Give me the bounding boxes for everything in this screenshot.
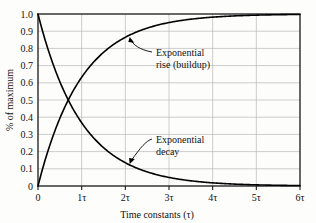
y-tick-label: 0.8 [21, 43, 34, 54]
x-axis-title: Time constants (τ) [120, 209, 194, 221]
y-tick-label: 1.0 [21, 9, 34, 20]
x-tick-label: 3τ [164, 192, 173, 203]
y-tick-label: 0.9 [21, 26, 34, 37]
y-tick-label: 0 [28, 181, 33, 192]
y-axis-tick-labels: 00.10.20.30.40.50.60.70.80.91.0 [21, 9, 34, 192]
y-tick-label: 0.4 [21, 112, 34, 123]
figure-background [0, 0, 316, 223]
x-tick-label: 2τ [121, 192, 130, 203]
y-tick-label: 0.7 [21, 60, 34, 71]
exponential-curves-figure: 00.10.20.30.40.50.60.70.80.91.0 01τ2τ3τ4… [0, 0, 316, 223]
x-tick-label: 6τ [295, 192, 304, 203]
x-tick-label: 0 [36, 192, 41, 203]
x-tick-label: 5τ [252, 192, 261, 203]
y-tick-label: 0.3 [21, 129, 34, 140]
decay-annotation-line2: decay [156, 146, 179, 157]
rise-annotation-line2: rise (buildup) [156, 59, 210, 71]
y-tick-label: 0.1 [21, 163, 34, 174]
y-axis-title: % of maximum [4, 69, 15, 131]
y-tick-label: 0.5 [21, 95, 34, 106]
x-tick-label: 1τ [77, 192, 86, 203]
chart-canvas: 00.10.20.30.40.50.60.70.80.91.0 01τ2τ3τ4… [0, 0, 316, 223]
rise-annotation-line1: Exponential [156, 47, 205, 58]
x-tick-label: 4τ [208, 192, 217, 203]
y-tick-label: 0.2 [21, 146, 34, 157]
decay-annotation-line1: Exponential [156, 134, 205, 145]
y-tick-label: 0.6 [21, 77, 34, 88]
